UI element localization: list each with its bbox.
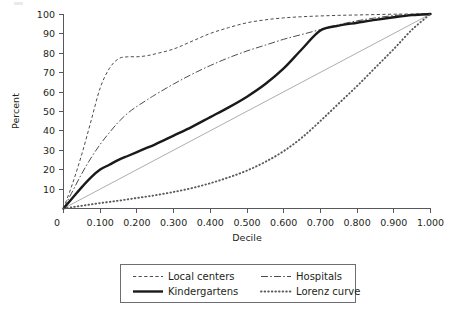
legend-label: Kindergartens [168,286,238,297]
y-tick-label: 10 [43,184,55,195]
x-axis-tick-labels: 0 0.100 0.200 0.300 0.400 0.500 0.600 0.… [54,217,444,228]
y-tick-label: 40 [43,125,55,136]
y-tick-label: 90 [43,28,55,39]
x-tick-label: 0.200 [123,217,150,228]
x-tick-label: 0.600 [270,217,297,228]
y-tick-label: 60 [43,87,55,98]
y-tick-label: 70 [43,67,55,78]
x-tick-label: 0 [54,217,60,228]
chart-background [0,0,457,312]
x-tick-label: 0.500 [233,217,260,228]
y-tick-label: 80 [43,48,55,59]
legend-label: Hospitals [296,271,342,282]
x-tick-label: 0.900 [380,217,407,228]
scan-artifact [14,2,23,5]
y-tick-label: 100 [37,9,55,20]
x-tick-label: 0.100 [87,217,114,228]
x-axis-title: Decile [232,232,262,243]
x-tick-label: 0.700 [307,217,334,228]
x-tick-label: 0.300 [160,217,187,228]
legend-label: Lorenz curve [296,286,360,297]
y-tick-label: 50 [43,106,55,117]
x-tick-label: 0.800 [343,217,370,228]
x-tick-label: 1.000 [417,217,444,228]
y-axis-title: Percent [10,93,21,129]
x-tick-label: 0.400 [197,217,224,228]
legend-label: Local centers [168,271,234,282]
chart-figure: 100 90 80 70 60 50 40 30 20 10 [0,0,457,312]
y-tick-label: 20 [43,164,55,175]
chart-svg: 100 90 80 70 60 50 40 30 20 10 [0,0,457,312]
y-tick-label: 30 [43,145,55,156]
